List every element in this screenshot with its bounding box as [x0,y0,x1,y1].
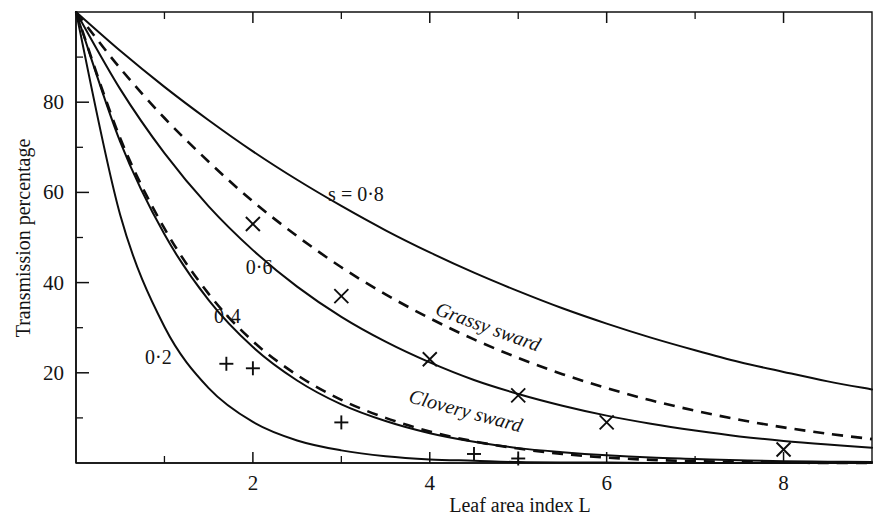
annotation-s-0-8: s = 0·8 [328,183,384,205]
x-tick-label: 4 [425,471,436,495]
figure-container: 246820406080 s = 0·80·60·40·2Grassy swar… [0,0,882,525]
annotation-0-4: 0·4 [214,305,241,327]
x-tick-label: 6 [601,471,612,495]
x-tick-label: 8 [778,471,789,495]
series-curve-s-0-2 [76,12,872,463]
annotation-0-6: 0·6 [246,256,273,278]
annotation-0-2: 0·2 [145,346,172,368]
x-tick-label: 2 [248,471,259,495]
axis-tick-labels: 246820406080 [43,90,789,495]
y-tick-label: 60 [43,180,64,204]
plot-border [76,12,872,463]
series-curve-clovery-sward [76,12,872,463]
y-tick-label: 80 [43,90,64,114]
annotation-grassy-sward: Grassy sward [432,297,544,357]
series-curve-s-0-6 [76,12,872,448]
y-axis-title: Transmission percentage [12,139,35,338]
plot-frame [76,12,872,463]
curve-series [76,12,872,463]
y-tick-label: 20 [43,361,64,385]
curve-annotations: s = 0·80·60·40·2Grassy swardClovery swar… [145,183,545,437]
transmission-vs-leaf-area-chart: 246820406080 s = 0·80·60·40·2Grassy swar… [0,0,882,525]
x-axis-title: Leaf area index L [449,494,591,516]
series-curve-s-0-4 [76,12,872,462]
series-curve-grassy-sward [76,12,872,439]
y-tick-label: 40 [43,271,64,295]
